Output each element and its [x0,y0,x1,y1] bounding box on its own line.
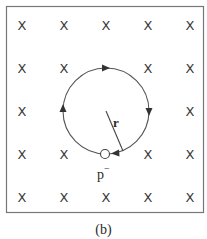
arrow-bottom-icon [111,150,120,157]
field-x-mark: X [144,147,153,162]
field-x-mark: X [186,18,195,33]
field-x-mark: X [186,147,195,162]
field-x-mark: X [186,104,195,119]
field-x-mark: X [18,18,27,33]
field-x-mark: X [102,190,111,205]
antiproton-particle [101,150,110,159]
field-x-mark: X [60,61,69,76]
field-x-mark: X [18,104,27,119]
field-x-mark: X [144,18,153,33]
field-x-mark: X [186,61,195,76]
field-x-mark: X [60,190,69,205]
field-x-mark: X [186,190,195,205]
particle-label: p− [97,163,110,182]
arrow-right-icon [146,108,153,116]
field-x-mark: X [18,190,27,205]
field-x-mark: X [18,147,27,162]
arrow-top-icon [102,65,110,72]
field-x-mark: X [144,61,153,76]
field-region-border [7,7,204,213]
field-x-mark: X [18,61,27,76]
arrow-left-icon [60,104,67,112]
field-x-mark: X [60,147,69,162]
field-x-mark: X [102,18,111,33]
figure-caption: (b) [95,222,112,238]
magnetic-field-diagram: XXXXXXXXXXXXXXXXXXXX r p− (b) [0,0,207,239]
field-x-mark: X [144,190,153,205]
radius-label: r [113,115,119,130]
field-x-mark: X [60,18,69,33]
